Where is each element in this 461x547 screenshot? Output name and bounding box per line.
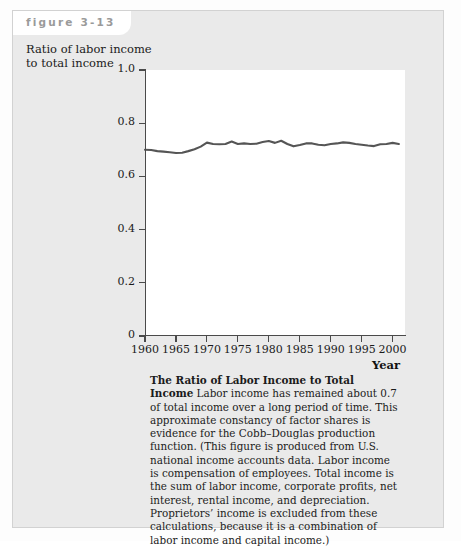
y-axis-tick (139, 229, 146, 230)
y-axis-tick-label: 1.0 (95, 62, 135, 75)
x-axis-tick (299, 336, 300, 342)
y-axis-tick-label: 0.2 (95, 275, 135, 288)
x-axis-tick (175, 336, 176, 342)
caption-body: Labor income has remained about 0.7 of t… (150, 387, 398, 545)
y-axis-tick (139, 123, 146, 124)
x-axis-tick (392, 336, 393, 342)
x-axis-tick (237, 336, 238, 342)
x-axis-tick (330, 336, 331, 342)
x-axis-tick (361, 336, 362, 342)
y-axis-tick-label: 0 (95, 328, 135, 341)
y-axis-tick-label: 0.4 (95, 222, 135, 235)
y-axis-tick-label: 0.6 (95, 168, 135, 181)
x-axis-tick (144, 336, 145, 342)
y-axis-tick (139, 282, 146, 283)
y-axis-tick-label: 0.8 (95, 115, 135, 128)
x-axis-tick (206, 336, 207, 342)
y-axis-tick (139, 69, 146, 70)
figure-caption: The Ratio of Labor Income to Total Incom… (150, 374, 400, 547)
y-axis-line (145, 70, 146, 336)
plot-background (145, 70, 405, 336)
x-axis-tick-label: 2000 (371, 343, 415, 356)
x-axis-tick (268, 336, 269, 342)
x-axis-line (145, 335, 406, 336)
y-axis-tick (139, 176, 146, 177)
x-axis-title: Year (372, 358, 400, 372)
